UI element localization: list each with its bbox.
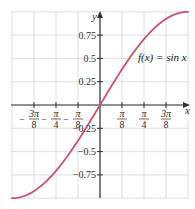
tick-labels: xy3π8−π4−π8−π8π43π80.750.50.25−0.25−0.5−… xyxy=(19,10,190,180)
tick-numerator: π xyxy=(75,108,81,119)
tick-numerator: π xyxy=(119,108,125,119)
y-tick-label: 0.5 xyxy=(84,53,97,64)
sine-chart: xy3π8−π4−π8−π8π43π80.750.50.25−0.25−0.5−… xyxy=(0,0,195,209)
tick-numerator: 3π xyxy=(160,108,172,119)
tick-denominator: 8 xyxy=(31,119,36,130)
tick-numerator: π xyxy=(53,108,59,119)
y-tick-label: 0.75 xyxy=(79,30,97,41)
x-tick-label: π4− xyxy=(41,108,61,130)
x-tick-label: π8 xyxy=(117,108,127,130)
tick-numerator: 3π xyxy=(28,108,40,119)
x-tick-label: 3π8− xyxy=(19,108,40,130)
x-tick-label: π4 xyxy=(139,108,149,130)
y-tick-label: −0.25 xyxy=(73,123,96,134)
tick-numerator: π xyxy=(141,108,147,119)
tick-minus: − xyxy=(41,114,47,125)
tick-minus: − xyxy=(63,114,69,125)
x-axis-label: x xyxy=(184,104,190,116)
tick-denominator: 8 xyxy=(120,119,125,130)
y-axis-label: y xyxy=(91,10,97,22)
function-label: f(x) = sin x xyxy=(138,51,187,64)
tick-denominator: 4 xyxy=(142,119,147,130)
tick-denominator: 8 xyxy=(164,119,169,130)
y-tick-label: −0.75 xyxy=(73,169,96,180)
y-tick-label: 0.25 xyxy=(79,76,97,87)
tick-minus: − xyxy=(19,114,25,125)
tick-denominator: 4 xyxy=(53,119,58,130)
x-tick-label: 3π8 xyxy=(160,108,172,130)
y-tick-label: −0.5 xyxy=(78,146,96,157)
